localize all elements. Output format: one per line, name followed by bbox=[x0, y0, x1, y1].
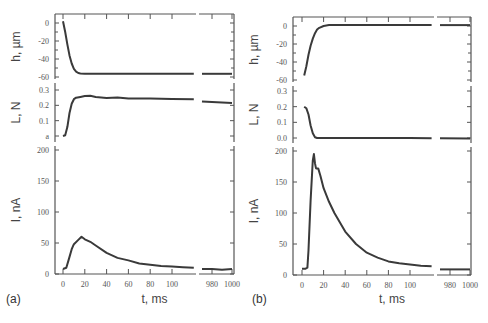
y-tick-label: -40 bbox=[38, 55, 49, 64]
y-tick-label: 0 bbox=[283, 22, 287, 31]
panel-a: 0-20-40-60h, µm0.30.20.1aL, N02040608010… bbox=[6, 14, 240, 306]
x-tick-label: 40 bbox=[103, 280, 111, 289]
x-tick-label: 980 bbox=[206, 280, 218, 289]
panel-b: 0-20-40-60h, µm0.30.20.10.0L, N020406080… bbox=[247, 17, 478, 306]
subplot-load: 0.30.20.1aL, N bbox=[9, 83, 234, 142]
y-tick-label: 0.3 bbox=[277, 87, 287, 96]
y-tick-label: 0 bbox=[45, 19, 49, 28]
x-tick-label: 0 bbox=[61, 280, 65, 289]
y-axis-title: h, µm bbox=[247, 34, 261, 64]
x-tick-label: 1000 bbox=[224, 280, 240, 289]
data-line bbox=[302, 154, 432, 269]
x-tick-label: 1000 bbox=[462, 281, 478, 290]
figure: 0-20-40-60h, µm0.30.20.1aL, N02040608010… bbox=[0, 0, 488, 323]
subplot-load: 0.30.20.10.0L, N bbox=[247, 86, 471, 143]
panel-label: (a) bbox=[6, 292, 21, 306]
y-tick-label: -20 bbox=[276, 40, 287, 49]
x-tick-label: 80 bbox=[384, 281, 392, 290]
data-line bbox=[202, 269, 232, 270]
y-tick-label: 50 bbox=[279, 240, 287, 249]
data-line bbox=[63, 96, 194, 136]
data-line bbox=[304, 107, 431, 139]
y-tick-label: 50 bbox=[41, 239, 49, 248]
x-axis-title: t, ms bbox=[379, 292, 405, 306]
subplot-current: 0204060801009801000200150100500I, nA bbox=[247, 147, 478, 290]
y-tick-label: 150 bbox=[37, 177, 49, 186]
y-tick-label: a bbox=[45, 132, 49, 141]
y-tick-label: 0.2 bbox=[39, 101, 49, 110]
x-tick-label: 980 bbox=[444, 281, 456, 290]
y-tick-label: -20 bbox=[38, 37, 49, 46]
y-axis-title: I, nA bbox=[247, 199, 261, 224]
x-tick-label: 20 bbox=[81, 280, 89, 289]
data-line bbox=[63, 237, 194, 269]
y-tick-label: 150 bbox=[275, 178, 287, 187]
y-axis-title: L, N bbox=[247, 103, 261, 125]
y-axis-title: L, N bbox=[9, 101, 23, 123]
x-axis-title: t, ms bbox=[142, 292, 168, 306]
x-tick-label: 80 bbox=[146, 280, 154, 289]
data-line bbox=[304, 25, 431, 75]
x-tick-label: 100 bbox=[166, 280, 178, 289]
data-line bbox=[63, 21, 194, 74]
subplot-height: 0-20-40-60h, µm bbox=[247, 17, 471, 85]
y-axis-title: I, nA bbox=[9, 198, 23, 223]
y-tick-label: 0.3 bbox=[39, 86, 49, 95]
y-axis-title: h, µm bbox=[9, 31, 23, 61]
y-tick-label: -60 bbox=[38, 73, 49, 82]
x-tick-label: 60 bbox=[363, 281, 371, 290]
y-tick-label: 200 bbox=[37, 146, 49, 155]
y-tick-label: 0 bbox=[45, 270, 49, 279]
x-tick-label: 60 bbox=[124, 280, 132, 289]
subplot-height: 0-20-40-60h, µm bbox=[9, 14, 234, 82]
y-tick-label: -40 bbox=[276, 58, 287, 67]
subplot-current: 0204060801009801000200150100500I, nA bbox=[9, 146, 240, 289]
x-tick-label: 20 bbox=[320, 281, 328, 290]
y-tick-label: 100 bbox=[37, 208, 49, 217]
x-tick-label: 100 bbox=[404, 281, 416, 290]
y-tick-label: -60 bbox=[276, 76, 287, 85]
y-tick-label: 200 bbox=[275, 147, 287, 156]
x-tick-label: 0 bbox=[300, 281, 304, 290]
x-tick-label: 40 bbox=[341, 281, 349, 290]
y-tick-label: 0 bbox=[283, 271, 287, 280]
y-tick-label: 100 bbox=[275, 209, 287, 218]
data-line bbox=[202, 102, 232, 104]
panel-label: (b) bbox=[252, 292, 267, 306]
y-tick-label: 0.1 bbox=[277, 118, 287, 127]
y-tick-label: 0.2 bbox=[277, 103, 287, 112]
y-tick-label: 0.0 bbox=[277, 134, 287, 143]
y-tick-label: 0.1 bbox=[39, 117, 49, 126]
